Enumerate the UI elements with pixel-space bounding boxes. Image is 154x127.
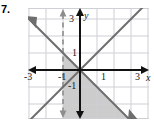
exercise-number: 7.: [1, 4, 10, 15]
y-tick-label-neg1: -1: [68, 81, 76, 91]
y-axis-label: y: [84, 11, 88, 21]
x-tick-label-neg3: -3: [24, 72, 32, 82]
y-tick-label-pos1: 1: [72, 48, 77, 58]
coordinate-plane: -3 -1 1 3 x 3 1 -1 y: [28, 8, 149, 119]
x-tick-label-neg1: -1: [58, 72, 66, 82]
x-axis-label: x: [146, 73, 150, 83]
graph-svg: [28, 8, 149, 119]
x-tick-label-pos1: 1: [101, 72, 106, 82]
y-tick-label-pos3: 3: [69, 14, 74, 24]
figure-container: 7.: [0, 0, 154, 127]
x-tick-label-pos3: 3: [135, 72, 140, 82]
